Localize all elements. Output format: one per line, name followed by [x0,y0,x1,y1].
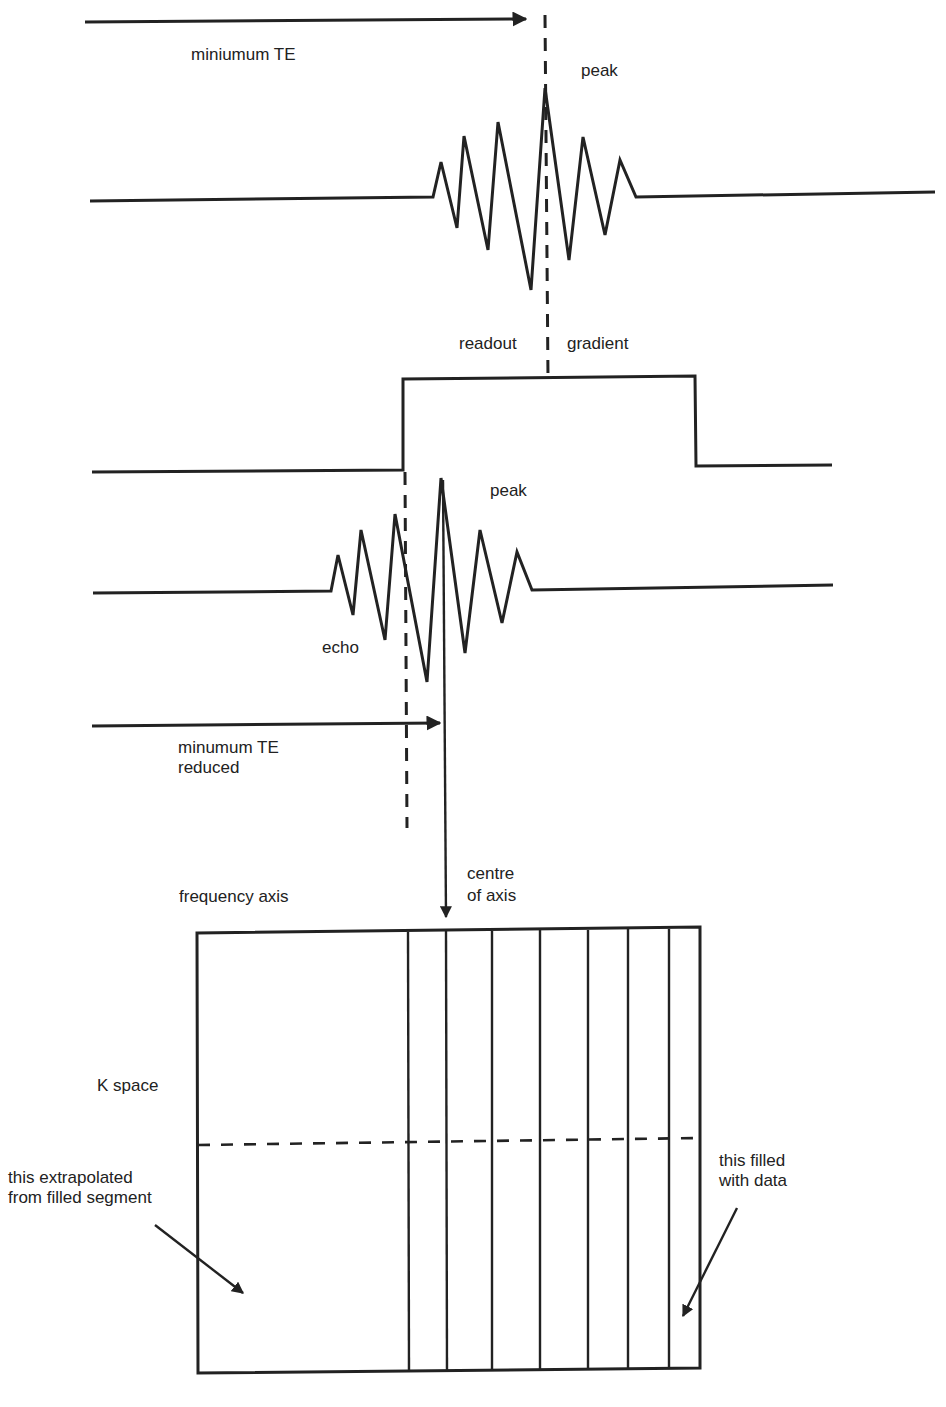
label-filled-2: with data [719,1170,787,1191]
minimum-te-reduced-arrow [92,723,440,726]
k-space-filled-columns [408,929,669,1371]
filled-pointer-arrow [683,1208,737,1316]
label-readout: readout [459,333,517,354]
centre-of-axis-arrow [443,480,446,917]
label-echo: echo [322,637,359,658]
k-space-box [197,927,700,1373]
label-k-space: K space [97,1075,158,1096]
shifted-echo-waveform [93,478,833,682]
label-centre-2: of axis [467,885,516,906]
label-centre-1: centre [467,863,514,884]
readout-gradient-pulse [92,376,832,472]
label-gradient: gradient [567,333,628,354]
label-filled-1: this filled [719,1150,785,1171]
label-minimum-te-reduced-1: minumum TE [178,737,279,758]
peak-dashed-line-top [545,15,548,378]
label-extrapolated-2: from filled segment [8,1187,152,1208]
label-minimum-te: miniumum TE [191,44,296,65]
label-minimum-te-reduced-2: reduced [178,757,239,778]
full-echo-waveform [90,88,935,290]
k-space-centre-dashed-line [198,1138,700,1145]
minimum-te-arrow [85,19,526,22]
label-extrapolated-1: this extrapolated [8,1167,133,1188]
label-peak-top: peak [581,60,618,81]
reduced-te-dashed-line [405,472,407,828]
label-frequency-axis: frequency axis [179,886,289,907]
label-peak-echo: peak [490,480,527,501]
